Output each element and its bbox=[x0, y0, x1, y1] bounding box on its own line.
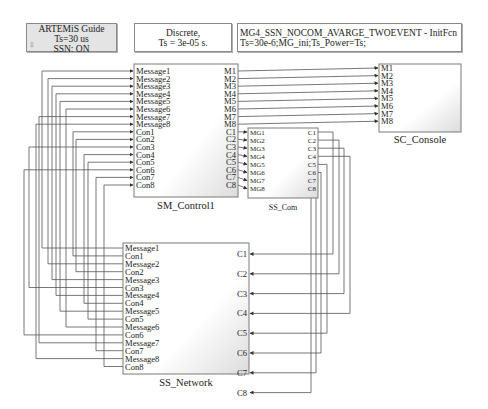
signal-line[interactable] bbox=[238, 114, 378, 117]
com-output-port: C7 bbox=[308, 177, 317, 185]
network-input-port: C7 bbox=[237, 368, 248, 378]
signal-line[interactable] bbox=[238, 121, 378, 124]
signal-line[interactable] bbox=[238, 162, 247, 164]
ss-network-block[interactable]: Message1Con1Message2Con2Message3Con3Mess… bbox=[123, 243, 249, 398]
ss-com-label: SS_Com bbox=[269, 203, 298, 212]
com-input-port: MG1 bbox=[250, 129, 265, 137]
signal-line[interactable] bbox=[238, 106, 378, 109]
network-input-port: C2 bbox=[237, 269, 247, 279]
sm-output-port: C8 bbox=[226, 180, 236, 190]
signal-line[interactable] bbox=[238, 147, 247, 148]
network-input-port: C8 bbox=[237, 388, 247, 398]
com-output-port: C5 bbox=[308, 161, 317, 169]
signal-line[interactable] bbox=[39, 117, 133, 343]
com-input-port: MG2 bbox=[250, 137, 265, 145]
signal-line[interactable] bbox=[48, 79, 133, 264]
signal-line[interactable] bbox=[29, 147, 133, 288]
sc-console-block[interactable]: M1M2M3M4M5M6M7M8 SC_Console bbox=[379, 63, 461, 145]
signal-line[interactable] bbox=[250, 173, 321, 354]
com-output-port: C1 bbox=[308, 129, 317, 137]
network-input-port: C6 bbox=[237, 348, 248, 358]
signal-line[interactable] bbox=[238, 98, 378, 101]
network-input-port: C4 bbox=[237, 308, 248, 318]
signal-line[interactable] bbox=[238, 155, 247, 157]
com-output-port: C2 bbox=[308, 137, 317, 145]
sc-console-label: SC_Console bbox=[394, 134, 447, 145]
signal-line[interactable] bbox=[238, 83, 378, 86]
signal-line[interactable] bbox=[238, 139, 247, 140]
signal-line[interactable] bbox=[238, 185, 247, 189]
com-input-port: MG6 bbox=[250, 169, 265, 177]
signal-line[interactable] bbox=[238, 177, 247, 180]
ss-network-label: SS_Network bbox=[159, 377, 213, 388]
sc-input-port: M8 bbox=[381, 116, 393, 126]
com-input-port: MG4 bbox=[250, 153, 265, 161]
com-input-port: MG8 bbox=[250, 185, 265, 193]
signal-line[interactable] bbox=[24, 170, 133, 335]
com-input-port: MG3 bbox=[250, 145, 265, 153]
sm-input-port: Con8 bbox=[136, 180, 155, 190]
com-output-port: C4 bbox=[308, 153, 317, 161]
signal-line[interactable] bbox=[238, 91, 378, 94]
signal-line[interactable] bbox=[250, 189, 318, 393]
signal-line[interactable] bbox=[238, 170, 247, 173]
network-output-port: Con8 bbox=[125, 362, 144, 372]
network-input-port: C3 bbox=[237, 289, 247, 299]
diagram-canvas: Message1Message2Message3Message4Message5… bbox=[0, 0, 488, 409]
network-input-port: C1 bbox=[237, 249, 247, 259]
signal-line[interactable] bbox=[238, 76, 378, 79]
com-output-port: C8 bbox=[308, 185, 317, 193]
signal-line[interactable] bbox=[36, 124, 133, 358]
com-input-port: MG5 bbox=[250, 161, 265, 169]
sm-control-label: SM_Control1 bbox=[157, 200, 215, 211]
sm-control-block[interactable]: Message1Message2Message3Message4Message5… bbox=[134, 64, 238, 211]
com-output-port: C6 bbox=[308, 169, 317, 177]
com-output-port: C3 bbox=[308, 145, 317, 153]
ss-com-block[interactable]: MG1MG2MG3MG4MG5MG6MG7MG8 C1C2C3C4C5C6C7C… bbox=[248, 128, 318, 212]
signal-line[interactable] bbox=[52, 86, 133, 279]
signal-line[interactable] bbox=[73, 132, 133, 256]
com-input-port: MG7 bbox=[250, 177, 265, 185]
signal-line[interactable] bbox=[238, 68, 378, 71]
network-input-port: C5 bbox=[237, 328, 247, 338]
